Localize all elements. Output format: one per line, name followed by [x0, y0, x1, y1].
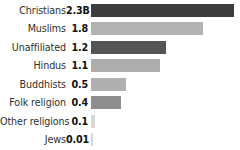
- value-label: 0.1: [66, 116, 88, 127]
- bar: [91, 115, 95, 128]
- category-label: Christians: [0, 5, 66, 16]
- bar-track: [91, 96, 240, 109]
- chart-row: Folk religion 0.4: [0, 94, 240, 113]
- bar-track: [91, 41, 240, 54]
- chart-row: Unaffiliated 1.2: [0, 38, 240, 57]
- bar: [91, 41, 166, 54]
- chart-row: Muslims 1.8: [0, 20, 240, 39]
- category-label: Jews: [0, 134, 66, 145]
- value-label: 1.8: [66, 23, 88, 34]
- bar: [91, 133, 93, 146]
- value-label: 0.01: [66, 134, 88, 145]
- chart-row: Other religions 0.1: [0, 112, 240, 131]
- value-label: 0.4: [66, 97, 88, 108]
- value-label: 1.2: [66, 42, 88, 53]
- bar-track: [91, 59, 240, 72]
- category-label: Other religions: [0, 116, 66, 127]
- category-label: Unaffiliated: [0, 42, 66, 53]
- bar: [91, 96, 121, 109]
- category-label: Folk religion: [0, 97, 66, 108]
- chart-row: Jews 0.01: [0, 131, 240, 150]
- bar: [91, 22, 203, 35]
- bar-track: [91, 115, 240, 128]
- bar-track: [91, 78, 240, 91]
- value-label: 1.1: [66, 60, 88, 71]
- bar: [91, 4, 234, 17]
- value-label: 0.5: [66, 79, 88, 90]
- chart-row: Christians 2.3B: [0, 1, 240, 20]
- horizontal-bar-chart: Christians 2.3B Muslims 1.8 Unaffiliated…: [0, 0, 240, 149]
- category-label: Muslims: [0, 23, 66, 34]
- chart-row: Hindus 1.1: [0, 57, 240, 76]
- category-label: Buddhists: [0, 79, 66, 90]
- chart-row: Buddhists 0.5: [0, 75, 240, 94]
- category-label: Hindus: [0, 60, 66, 71]
- bar-track: [91, 4, 240, 17]
- value-label: 2.3B: [66, 5, 88, 16]
- bar-track: [91, 133, 240, 146]
- bar: [91, 78, 126, 91]
- bar: [91, 59, 160, 72]
- bar-track: [91, 22, 240, 35]
